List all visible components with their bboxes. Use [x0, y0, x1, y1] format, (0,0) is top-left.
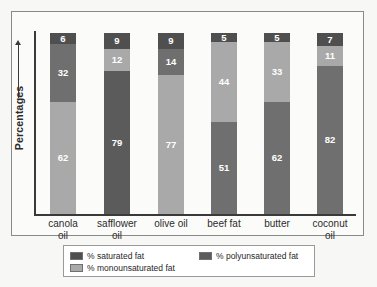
bar-segment-value: 62: [272, 153, 283, 163]
bar-segment[interactable]: 7: [317, 33, 343, 46]
x-axis-tick-labels: canolaoilsaffloweroilolive oilbeef fatbu…: [34, 218, 356, 248]
bar-segment[interactable]: 14: [158, 49, 184, 74]
bar-segment[interactable]: 79: [104, 71, 130, 214]
bar-segment[interactable]: 44: [211, 42, 237, 122]
bar-coconut-oil[interactable]: 71182: [317, 33, 343, 214]
bar-segment-value: 33: [272, 67, 283, 77]
bar-segment[interactable]: 9: [158, 33, 184, 49]
legend-label: % saturated fat: [87, 251, 144, 261]
chart-legend: % saturated fat% monounsaturated fat% po…: [63, 245, 315, 277]
x-axis-line: [34, 214, 356, 216]
bar-beef-fat[interactable]: 54451: [211, 33, 237, 214]
bar-segment-value: 77: [166, 140, 177, 150]
bar-segment[interactable]: 62: [50, 102, 76, 214]
bar-segment-value: 82: [325, 135, 336, 145]
bar-segment-value: 79: [112, 138, 123, 148]
bar-segment[interactable]: 11: [317, 46, 343, 66]
bar-segment-value: 6: [60, 34, 65, 44]
bar-segment-value: 5: [221, 33, 226, 42]
bar-segment-value: 9: [114, 36, 119, 46]
bar-segment[interactable]: 5: [211, 33, 237, 42]
bar-segment-value: 14: [166, 57, 177, 67]
bar-segment[interactable]: 33: [264, 42, 290, 102]
plot-area: 632629127991477544515336271182: [34, 31, 356, 216]
x-tick-label-line2: oil: [297, 230, 363, 242]
legend-item[interactable]: % saturated fat: [70, 251, 144, 261]
bar-segment[interactable]: 12: [104, 49, 130, 71]
bar-segment[interactable]: 62: [264, 102, 290, 214]
legend-swatch: [70, 252, 83, 260]
bar-segment-value: 51: [219, 163, 230, 173]
chart-root: Percentages 6326291279914775445153362711…: [0, 0, 377, 287]
bar-segment[interactable]: 82: [317, 66, 343, 214]
x-tick-label-line1: coconut: [297, 218, 363, 230]
legend-swatch: [199, 252, 212, 260]
bar-segment[interactable]: 9: [104, 33, 130, 49]
bar-segment[interactable]: 77: [158, 75, 184, 214]
bar-series-container: 632629127991477544515336271182: [36, 33, 356, 214]
legend-item[interactable]: % monounsaturated fat: [70, 263, 175, 273]
bar-segment[interactable]: 5: [264, 33, 290, 42]
legend-label: % monounsaturated fat: [87, 263, 175, 273]
bar-segment-value: 12: [112, 55, 123, 65]
bar-segment-value: 5: [274, 33, 279, 42]
bar-segment[interactable]: 6: [50, 33, 76, 44]
bar-segment-value: 9: [168, 36, 173, 46]
bar-canola-oil[interactable]: 63262: [50, 33, 76, 214]
bar-safflower-oil[interactable]: 91279: [104, 33, 130, 214]
bar-segment-value: 32: [58, 68, 69, 78]
legend-swatch: [70, 264, 83, 272]
bar-segment-value: 7: [327, 35, 332, 45]
bar-olive-oil[interactable]: 91477: [158, 33, 184, 214]
y-axis-caption: Percentages: [9, 40, 27, 210]
bar-butter[interactable]: 53362: [264, 33, 290, 214]
legend-item[interactable]: % polyunsaturated fat: [199, 251, 298, 261]
bar-segment-value: 62: [58, 153, 69, 163]
y-axis-label: Percentages: [13, 66, 25, 170]
legend-label: % polyunsaturated fat: [216, 251, 298, 261]
x-tick-label: coconutoil: [297, 218, 363, 241]
bar-segment[interactable]: 32: [50, 44, 76, 102]
x-tick-label-line2: oil: [84, 230, 150, 242]
bar-segment-value: 11: [325, 51, 335, 61]
bar-segment-value: 44: [219, 77, 230, 87]
bar-segment[interactable]: 51: [211, 122, 237, 214]
